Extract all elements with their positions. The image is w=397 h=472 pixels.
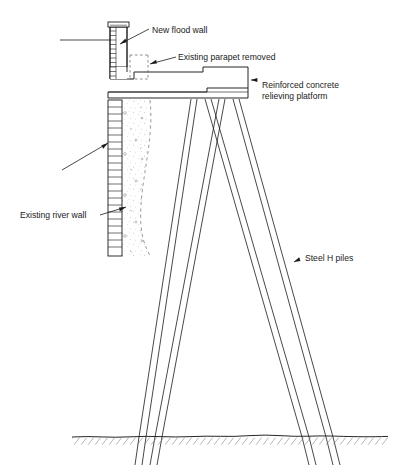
label-layer: New flood wall Existing parapet removed … bbox=[20, 25, 353, 263]
label-new-flood-wall: New flood wall bbox=[152, 25, 207, 35]
label-steel-h-piles: Steel H piles bbox=[305, 253, 353, 263]
steel-h-piles bbox=[135, 99, 340, 465]
leader-existing-parapet-removed bbox=[150, 57, 176, 64]
pile-left-inner bbox=[205, 99, 316, 465]
label-existing-river-wall: Existing river wall bbox=[20, 210, 86, 220]
pile-right-outer bbox=[233, 99, 340, 465]
pile-right-inner bbox=[150, 99, 225, 465]
ground-line bbox=[72, 435, 388, 444]
label-relieving-platform-line1: Reinforced concrete bbox=[262, 80, 339, 90]
figure-canvas: New flood wall Existing parapet removed … bbox=[0, 0, 397, 472]
label-existing-parapet-removed: Existing parapet removed bbox=[178, 52, 276, 62]
mass-concrete-fill bbox=[120, 98, 154, 258]
existing-river-wall bbox=[108, 100, 122, 256]
leader-steel-h-piles bbox=[294, 257, 301, 262]
flood-wall-coping-cap bbox=[108, 22, 129, 27]
new-flood-wall bbox=[108, 22, 129, 79]
flood-wall-section-diagram: New flood wall Existing parapet removed … bbox=[0, 0, 397, 472]
leader-lines bbox=[60, 29, 301, 262]
leader-relieving-platform bbox=[251, 78, 257, 82]
reinforced-concrete-relieving-platform bbox=[108, 67, 248, 98]
label-relieving-platform-line2: relieving platform bbox=[262, 91, 327, 101]
ground-hatching bbox=[72, 438, 388, 445]
